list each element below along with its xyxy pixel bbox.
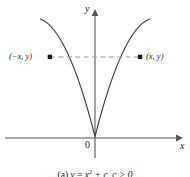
caption-equation-tail: + c, c > 0 [95, 170, 133, 177]
y-axis-label: y [85, 4, 89, 14]
caption-equation-exponent: 2 [89, 168, 92, 175]
figure-canvas [0, 0, 190, 177]
caption-equation-lhs: y [70, 170, 74, 177]
caption-equation-equals: = [77, 170, 82, 177]
figure-caption: (a) y = x2 + c, c > 0 [0, 168, 190, 177]
y-axis-arrowhead [92, 9, 99, 16]
parabola-symmetry-figure: y x 0 (−x, y) (x, y) (a) y = x2 + c, c >… [0, 0, 190, 177]
caption-part-label: (a) [58, 170, 69, 177]
right-point-marker [138, 55, 142, 59]
right-point-label: (x, y) [146, 52, 163, 61]
left-point-label: (−x, y) [9, 52, 32, 61]
x-axis-label: x [180, 141, 184, 151]
origin-label: 0 [85, 140, 90, 150]
left-point-marker [48, 55, 52, 59]
